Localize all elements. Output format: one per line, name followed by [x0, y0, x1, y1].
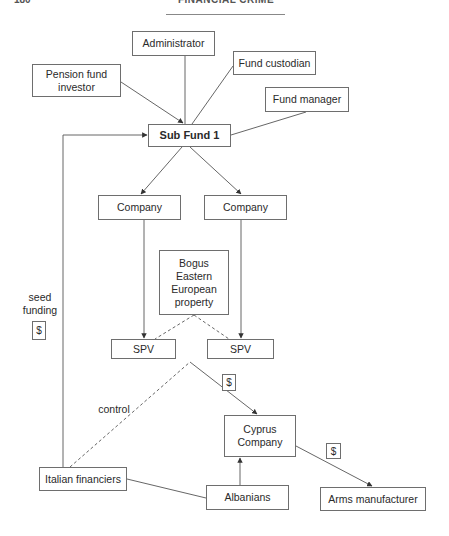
node-albanians: Albanians — [206, 485, 289, 510]
node-fund-manager: Fund manager — [265, 87, 349, 112]
node-cyprus-company: Cyprus Company — [224, 415, 296, 457]
node-fund-custodian: Fund custodian — [233, 51, 316, 75]
edge-italian-albanians — [127, 479, 206, 498]
node-administrator: Administrator — [132, 31, 215, 56]
label-seed-funding: seed funding — [20, 291, 60, 317]
node-company-right: Company — [204, 195, 287, 220]
node-arms-manufacturer: Arms manufacturer — [320, 487, 426, 511]
edge-bogus-spv-left — [155, 315, 194, 339]
edge-seed-funding — [63, 135, 147, 467]
money-spv-to-cyprus: $ — [222, 374, 236, 391]
edge-subfund-company-right — [190, 147, 241, 194]
node-spv-left: SPV — [111, 339, 176, 359]
edge-custodian-subfund — [192, 66, 233, 124]
edge-manager-subfund — [231, 112, 306, 135]
node-pension-fund-investor: Pension fund investor — [32, 64, 121, 97]
edge-subfund-company-left — [141, 147, 182, 194]
edge-pension-subfund — [121, 82, 183, 123]
node-sub-fund-1: Sub Fund 1 — [148, 124, 231, 147]
money-seed-funding: $ — [32, 321, 46, 340]
node-spv-right: SPV — [207, 339, 274, 359]
node-bogus-eastern-european-property: Bogus Eastern European property — [159, 250, 229, 315]
label-control: control — [96, 403, 132, 416]
node-italian-financiers: Italian financiers — [39, 467, 127, 491]
edge-bogus-spv-right — [194, 315, 229, 339]
node-company-left: Company — [98, 195, 181, 220]
money-cyprus-to-arms: $ — [326, 443, 341, 459]
